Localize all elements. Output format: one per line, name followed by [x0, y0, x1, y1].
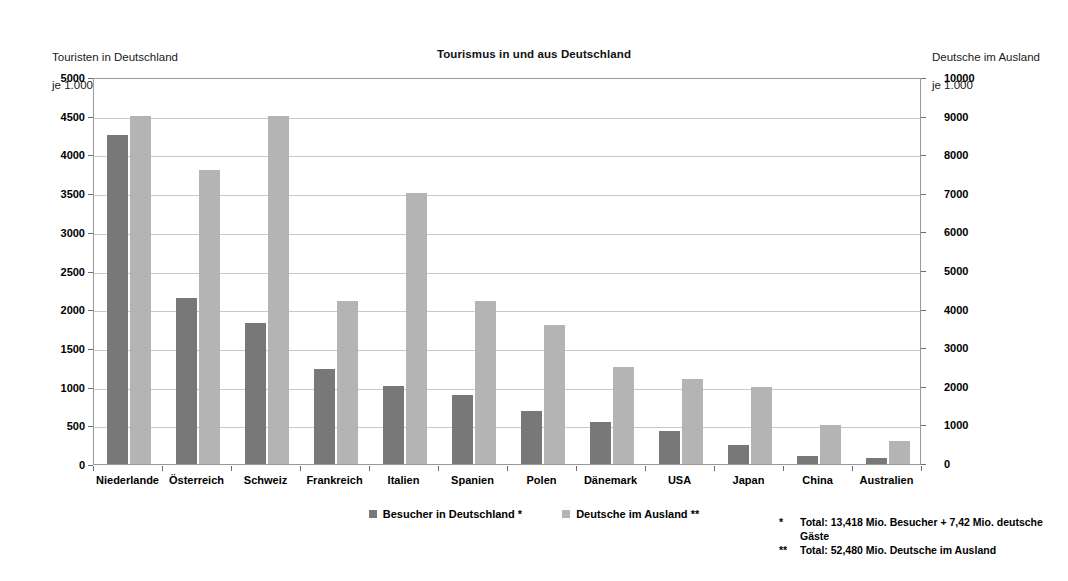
bar — [751, 387, 772, 464]
bar — [889, 441, 910, 464]
y-tick-mark-right — [921, 310, 926, 311]
x-tick-mark — [852, 466, 853, 471]
y-tick-label-right: 6000 — [944, 226, 1004, 239]
footnote-text: Total: 13,418 Mio. Besucher + 7,42 Mio. … — [800, 515, 1049, 543]
bar — [176, 298, 197, 464]
x-tick-mark — [369, 466, 370, 471]
y-tick-label-left: 500 — [41, 420, 85, 433]
bar — [544, 325, 565, 464]
gridline — [94, 427, 920, 428]
bar — [797, 456, 818, 465]
x-tick-mark — [507, 466, 508, 471]
x-tick-label: Schweiz — [231, 474, 300, 486]
gridline — [94, 389, 920, 390]
footnote-marker: * — [779, 515, 794, 529]
legend-label: Deutsche im Ausland ** — [576, 508, 699, 520]
gridline — [94, 118, 920, 119]
chart-container: Touristen in Deutschland je 1.000 Deutsc… — [0, 0, 1068, 581]
y-tick-mark-left — [88, 155, 93, 156]
y-tick-mark-right — [921, 117, 926, 118]
x-tick-label: Australien — [852, 474, 921, 486]
y-tick-mark-right — [921, 194, 926, 195]
y-tick-mark-right — [921, 78, 926, 79]
bar — [659, 431, 680, 464]
y-tick-label-left: 1000 — [41, 382, 85, 395]
y-tick-label-left: 3000 — [41, 227, 85, 240]
bar — [820, 425, 841, 464]
y-tick-mark-right — [921, 232, 926, 233]
x-tick-label: Spanien — [438, 474, 507, 486]
bar — [107, 135, 128, 464]
bar — [245, 323, 266, 464]
footnote-row: **Total: 52,480 Mio. Deutsche im Ausland — [779, 543, 1049, 557]
y-tick-label-right: 3000 — [944, 342, 1004, 355]
y-tick-label-right: 4000 — [944, 304, 1004, 317]
gridline — [94, 156, 920, 157]
x-tick-label: Japan — [714, 474, 783, 486]
x-tick-mark — [300, 466, 301, 471]
x-tick-mark — [921, 466, 922, 471]
chart-title: Tourismus in und aus Deutschland — [0, 48, 1068, 60]
legend-swatch-icon — [562, 510, 570, 518]
y-tick-mark-right — [921, 387, 926, 388]
bar — [613, 367, 634, 464]
y-tick-label-right: 1000 — [944, 419, 1004, 432]
bar — [475, 301, 496, 464]
bar — [337, 301, 358, 464]
y-tick-label-left: 5000 — [41, 72, 85, 85]
footnote-text: Total: 52,480 Mio. Deutsche im Ausland — [800, 543, 1049, 557]
bar — [452, 395, 473, 464]
bar — [590, 422, 611, 464]
bar — [728, 445, 749, 464]
gridline — [94, 195, 920, 196]
bars-layer — [94, 79, 920, 464]
right-axis-caption: Deutsche im Ausland je 1.000 — [932, 36, 1040, 106]
gridline — [94, 273, 920, 274]
x-tick-mark — [162, 466, 163, 471]
y-tick-label-left: 1500 — [41, 343, 85, 356]
y-tick-label-left: 4500 — [41, 111, 85, 124]
y-tick-mark-left — [88, 388, 93, 389]
legend-item[interactable]: Besucher in Deutschland * — [369, 508, 522, 520]
y-tick-mark-left — [88, 233, 93, 234]
bar — [521, 411, 542, 464]
y-tick-mark-left — [88, 349, 93, 350]
bar — [682, 379, 703, 464]
x-tick-mark — [576, 466, 577, 471]
plot-area — [93, 78, 921, 465]
y-tick-mark-right — [921, 155, 926, 156]
y-tick-label-right: 8000 — [944, 149, 1004, 162]
y-tick-label-right: 0 — [944, 458, 1004, 471]
y-tick-label-right: 2000 — [944, 381, 1004, 394]
x-tick-label: Polen — [507, 474, 576, 486]
legend-item[interactable]: Deutsche im Ausland ** — [562, 508, 699, 520]
x-tick-label: Niederlande — [93, 474, 162, 486]
y-tick-mark-right — [921, 271, 926, 272]
y-tick-mark-left — [88, 272, 93, 273]
gridline — [94, 234, 920, 235]
y-tick-mark-left — [88, 426, 93, 427]
x-tick-label: Österreich — [162, 474, 231, 486]
bar — [314, 369, 335, 464]
x-tick-mark — [93, 466, 94, 471]
y-tick-label-right: 10000 — [944, 72, 1004, 85]
y-tick-mark-left — [88, 310, 93, 311]
x-tick-mark — [645, 466, 646, 471]
y-tick-label-left: 2000 — [41, 304, 85, 317]
y-tick-label-left: 3500 — [41, 188, 85, 201]
y-tick-label-left: 2500 — [41, 266, 85, 279]
y-tick-label-right: 9000 — [944, 111, 1004, 124]
x-tick-label: Italien — [369, 474, 438, 486]
y-tick-label-right: 7000 — [944, 188, 1004, 201]
y-tick-mark-left — [88, 117, 93, 118]
y-tick-mark-right — [921, 348, 926, 349]
footnote-row: *Total: 13,418 Mio. Besucher + 7,42 Mio.… — [779, 515, 1049, 543]
y-tick-mark-left — [88, 78, 93, 79]
x-tick-label: Frankreich — [300, 474, 369, 486]
legend-swatch-icon — [369, 510, 377, 518]
footnote-marker: ** — [779, 543, 794, 557]
y-tick-label-left: 4000 — [41, 149, 85, 162]
x-tick-mark — [714, 466, 715, 471]
x-tick-mark — [438, 466, 439, 471]
y-tick-mark-right — [921, 425, 926, 426]
